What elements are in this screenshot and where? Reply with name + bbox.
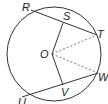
label-o: O: [40, 48, 49, 60]
radius-ow-dashed: [52, 54, 98, 73]
label-v: V: [61, 86, 70, 98]
label-t: T: [97, 28, 105, 40]
label-u: U: [18, 96, 26, 104]
label-r: R: [22, 1, 30, 13]
label-s: S: [63, 10, 71, 22]
radius-ot-dashed: [52, 35, 97, 54]
segment-ov: [52, 54, 63, 85]
circle-diagram: R S T O W V U: [0, 0, 108, 104]
segment-os: [52, 23, 63, 54]
label-w: W: [98, 71, 108, 83]
